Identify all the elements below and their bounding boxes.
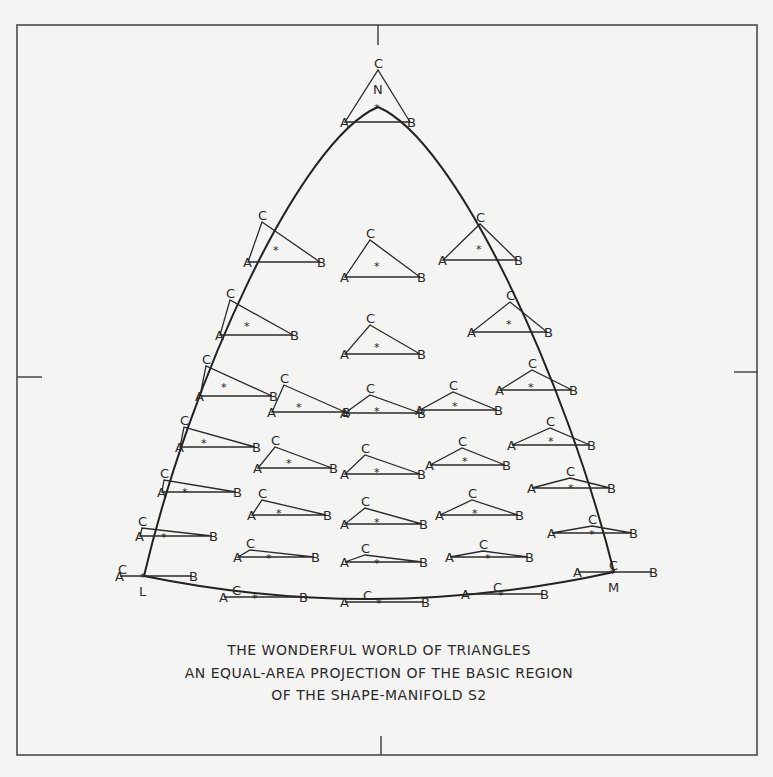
point-label-b: B — [407, 115, 416, 130]
point-label-b: B — [323, 508, 332, 523]
centroid-marker-icon: * — [610, 567, 616, 580]
point-label-a: A — [340, 467, 349, 482]
centroid-marker-icon: * — [201, 437, 207, 450]
centroid-marker-icon: * — [286, 457, 292, 470]
point-label-c: C — [458, 434, 467, 449]
triangle-r6a: ABC* — [135, 514, 218, 544]
point-label-a: A — [267, 405, 276, 420]
triangle-outline — [345, 325, 420, 354]
point-label-b: B — [421, 595, 430, 610]
point-label-a: A — [340, 555, 349, 570]
point-label-c: C — [232, 583, 241, 598]
point-label-a: A — [467, 325, 476, 340]
point-label-a: A — [215, 328, 224, 343]
point-label-a: A — [438, 253, 447, 268]
triangle-L: ABC* — [115, 562, 198, 584]
point-label-c: C — [180, 413, 189, 428]
triangle-r2b: ABC* — [340, 311, 426, 362]
point-label-b: B — [419, 555, 428, 570]
point-label-b: B — [233, 485, 242, 500]
triangle-outline — [500, 370, 572, 390]
point-label-a: A — [445, 550, 454, 565]
point-label-c: C — [566, 464, 575, 479]
point-label-c: C — [138, 514, 147, 529]
point-label-b: B — [311, 550, 320, 565]
point-label-c: C — [546, 414, 555, 429]
point-label-c: C — [361, 494, 370, 509]
triangle-r3e: ABC* — [495, 356, 578, 398]
point-label-c: C — [280, 371, 289, 386]
centroid-marker-icon: * — [528, 381, 534, 394]
point-label-b: B — [525, 550, 534, 565]
caption-title: THE WONDERFUL WORLD OF TRIANGLES — [226, 642, 531, 658]
boundary-right-arc — [378, 107, 614, 572]
triangle-r2c: ABC* — [467, 288, 553, 340]
centroid-marker-icon: * — [376, 597, 382, 610]
triangle-M: ABC* — [573, 558, 658, 580]
point-label-c: C — [258, 208, 267, 223]
point-label-c: C — [366, 311, 375, 326]
triangle-r1a: ABC* — [243, 208, 326, 270]
point-label-a: A — [195, 389, 204, 404]
point-label-c: C — [476, 210, 485, 225]
triangle-outline — [345, 240, 420, 277]
triangle-r5b: ABC* — [247, 486, 332, 523]
centroid-marker-icon: * — [472, 507, 478, 520]
point-label-b: B — [629, 526, 638, 541]
point-label-a: A — [247, 508, 256, 523]
centroid-marker-icon: * — [374, 516, 380, 529]
triangle-r2a: ABC* — [215, 286, 299, 343]
triangle-r1b: ABC* — [340, 226, 426, 285]
triangle-outline — [420, 392, 497, 410]
point-label-b: B — [515, 508, 524, 523]
centroid-marker-icon: * — [296, 401, 302, 414]
triangle-outline — [252, 500, 326, 515]
centroid-marker-icon: * — [498, 589, 504, 602]
point-label-a: A — [340, 595, 349, 610]
figure-canvas: ABC*ABC*ABC*ABC*ABC*ABC*ABC*ABC*ABC*ABC*… — [0, 0, 773, 777]
triangle-r5d: ABC* — [435, 486, 524, 523]
point-label-a: A — [233, 550, 242, 565]
vertex-label-m: M — [608, 580, 619, 595]
point-label-a: A — [495, 383, 504, 398]
point-label-c: C — [363, 588, 372, 603]
triangle-outline — [200, 366, 272, 396]
point-label-a: A — [340, 406, 349, 421]
point-label-c: C — [361, 441, 370, 456]
point-label-b: B — [569, 383, 578, 398]
centroid-marker-icon: * — [452, 400, 458, 413]
triangle-outline — [345, 455, 420, 474]
point-label-c: C — [528, 356, 537, 371]
point-label-a: A — [547, 526, 556, 541]
point-label-a: A — [243, 255, 252, 270]
point-label-c: C — [258, 486, 267, 501]
vertex-label-l: L — [139, 584, 147, 599]
point-label-c: C — [361, 541, 370, 556]
point-label-b: B — [417, 347, 426, 362]
centroid-marker-icon: * — [374, 557, 380, 570]
point-label-b: B — [544, 325, 553, 340]
point-label-a: A — [415, 403, 424, 418]
triangle-r4d: ABC* — [425, 434, 511, 473]
centroid-marker-icon: * — [252, 592, 258, 605]
point-label-c: C — [449, 378, 458, 393]
triangle-outline — [258, 447, 332, 468]
triangle-outline — [430, 448, 505, 465]
triangle-outline — [162, 480, 236, 492]
point-label-c: C — [479, 537, 488, 552]
triangle-r6e: ABC* — [547, 512, 638, 541]
triangle-outline — [440, 500, 518, 515]
point-label-a: A — [340, 347, 349, 362]
triangle-r5c: ABC* — [340, 494, 428, 532]
triangle-outline — [345, 555, 422, 562]
triangle-outline — [238, 550, 314, 557]
triangle-outline — [345, 395, 420, 413]
centroid-marker-icon: * — [244, 320, 250, 333]
point-label-b: B — [419, 517, 428, 532]
point-label-b: B — [607, 481, 616, 496]
point-label-c: C — [366, 226, 375, 241]
point-label-a: A — [507, 438, 516, 453]
triangle-outline — [345, 508, 422, 524]
point-label-b: B — [189, 569, 198, 584]
point-label-b: B — [540, 587, 549, 602]
